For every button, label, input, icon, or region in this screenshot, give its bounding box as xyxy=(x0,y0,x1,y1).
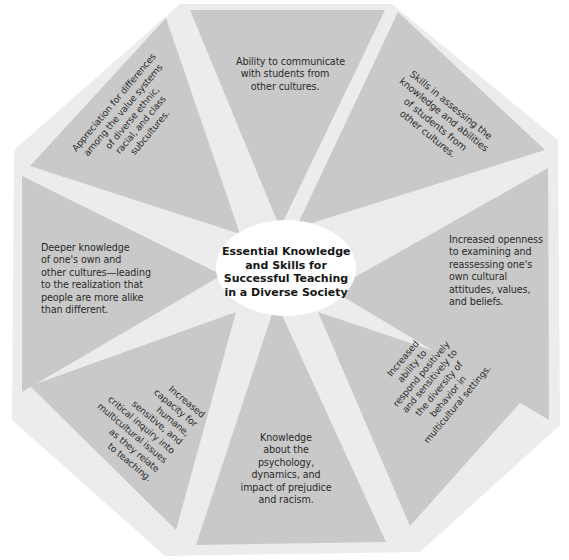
segment-line: Increased openness xyxy=(449,234,549,246)
center-title-line: in a Diverse Society xyxy=(222,286,350,300)
segment-line: Knowledge xyxy=(236,432,336,444)
segment-line: about the xyxy=(236,444,336,456)
segment-line: people are more alike xyxy=(41,292,161,304)
segment-line: with students from xyxy=(236,68,334,80)
segment-line: dynamics, and xyxy=(236,469,336,481)
segment-line: to the realization that xyxy=(41,279,161,291)
segment-line: and racism. xyxy=(236,494,336,506)
segment-line: of one's own and xyxy=(41,254,161,266)
segment-line: other cultures—leading xyxy=(41,267,161,279)
center-title: Essential Knowledge and Skills for Succe… xyxy=(222,245,350,299)
segment-line: to examining and xyxy=(449,246,549,258)
segment-line: attitudes, values, xyxy=(449,284,549,296)
diagram-canvas: Essential Knowledge and Skills for Succe… xyxy=(0,0,569,560)
segment-line: psychology, xyxy=(236,457,336,469)
center-title-line: Successful Teaching xyxy=(222,272,350,286)
segment-line: Ability to communicate xyxy=(236,56,334,68)
segment-left-label: Deeper knowledge of one's own and other … xyxy=(41,242,161,316)
segment-line: impact of prejudice xyxy=(236,482,336,494)
segment-right-label: Increased openness to examining and reas… xyxy=(449,234,549,308)
center-title-line: Essential Knowledge xyxy=(222,245,350,259)
segment-line: other cultures. xyxy=(236,81,334,93)
segment-line: Deeper knowledge xyxy=(41,242,161,254)
center-title-line: and Skills for xyxy=(222,259,350,273)
segment-line: own cultural xyxy=(449,271,549,283)
segment-top-label: Ability to communicate with students fro… xyxy=(236,56,334,93)
segment-line: than different. xyxy=(41,304,161,316)
segment-line: reassessing one's xyxy=(449,259,549,271)
segment-line: and beliefs. xyxy=(449,296,549,308)
segment-bottom-label: Knowledge about the psychology, dynamics… xyxy=(236,432,336,506)
